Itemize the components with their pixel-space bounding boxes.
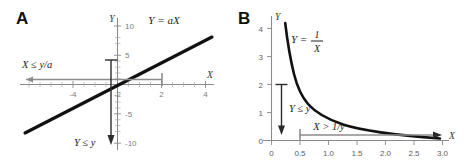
y-inequality-arrowhead-b: [278, 126, 285, 136]
x-tick-label-b-6: 3.0: [437, 149, 449, 158]
x-tick-label-b-3: 1.5: [351, 149, 363, 158]
y-tick-label-b-3: 3: [259, 53, 264, 62]
panel-a-plot: -4 -2 2 4 10 5 -5 -10 Y X Y = aX X ≤ y/a…: [0, 0, 233, 165]
y-inequality-label-b: Y ≤ y: [289, 103, 311, 114]
curve-label-b-numerator: 1: [315, 29, 320, 40]
y-tick-label-b-1: 1: [259, 109, 264, 118]
curve-y-equals-one-over-x: [285, 23, 440, 139]
x-tick-label-a-3: 4: [203, 90, 208, 99]
x-inequality-arrowhead-a: [26, 77, 33, 83]
x-tick-label-a-1: -2: [114, 90, 122, 99]
y-inequality-arrowhead-a: [108, 135, 115, 145]
panel-b-plot: 0 1 2 3 4 0 0.5 1.0 1.5 2.0 2.5 3.0 Y X …: [233, 0, 466, 165]
curve-label-b-denominator: X: [313, 43, 321, 54]
y-axis-name-a: Y: [109, 14, 116, 24]
y-tick-label-a-0: 10: [125, 22, 134, 31]
panel-b: B: [233, 0, 466, 165]
figure-container: A: [0, 0, 466, 165]
y-tick-label-a-1: 5: [125, 51, 130, 60]
x-inequality-label-a: X ≤ y/a: [21, 59, 52, 70]
x-tick-label-a-2: 2: [159, 90, 164, 99]
y-ticks-b: [267, 29, 272, 141]
y-tick-label-b-4: 4: [259, 25, 264, 34]
y-tick-label-b-0: 0: [259, 137, 264, 146]
x-tick-label-b-5: 2.5: [408, 149, 420, 158]
y-tick-label-a-3: -10: [125, 139, 137, 148]
curve-label-b-lead: Y =: [291, 33, 307, 45]
x-tick-label-b-1: 0.5: [294, 149, 306, 158]
x-axis-name-a: X: [206, 70, 214, 80]
y-inequality-label-a: Y ≤ y: [74, 137, 96, 148]
curve-label-a: Y = aX: [148, 14, 181, 26]
y-tick-label-a-2: -5: [125, 110, 133, 119]
curve-label-b: Y = 1 X: [291, 29, 323, 54]
panel-a: A: [0, 0, 233, 165]
x-axis-name-b: X: [448, 131, 456, 141]
y-tick-label-b-2: 2: [259, 81, 264, 90]
x-tick-label-b-0: 0: [269, 149, 274, 158]
x-tick-label-a-0: -4: [69, 90, 77, 99]
y-axis-name-b: Y: [275, 12, 282, 22]
x-tick-label-b-2: 1.0: [323, 149, 335, 158]
x-ticks-b: [272, 141, 443, 146]
x-tick-label-b-4: 2.0: [380, 149, 392, 158]
x-inequality-label-b: X > 1/y: [312, 121, 345, 132]
